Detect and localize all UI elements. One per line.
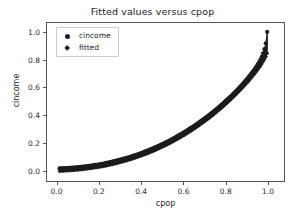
x-tick-mark xyxy=(183,182,184,185)
legend-item-cincome: cincome xyxy=(62,31,111,41)
y-tick-label: 1.0 xyxy=(12,27,40,36)
chart-legend: cincome fitted xyxy=(56,27,119,57)
x-tick-label: 0.0 xyxy=(51,187,63,196)
x-tick-mark xyxy=(268,182,269,185)
chart-figure: Fitted values versus cpop cincome cpop 0… xyxy=(0,0,305,221)
x-axis-label: cpop xyxy=(46,199,285,208)
y-tick-mark xyxy=(43,115,46,116)
legend-label: fitted xyxy=(79,43,99,53)
circle-marker-icon xyxy=(62,34,72,39)
x-tick-label: 0.8 xyxy=(220,187,232,196)
x-tick-mark xyxy=(226,182,227,185)
legend-label: cincome xyxy=(79,31,111,41)
x-tick-label: 0.6 xyxy=(178,187,190,196)
y-tick-label: 0.4 xyxy=(12,111,40,120)
x-tick-mark xyxy=(57,182,58,185)
x-tick-mark xyxy=(99,182,100,185)
y-tick-mark xyxy=(43,87,46,88)
chart-title: Fitted values versus cpop xyxy=(0,6,305,17)
y-tick-label: 0.6 xyxy=(12,83,40,92)
y-tick-label: 0.0 xyxy=(12,166,40,175)
y-tick-mark xyxy=(43,143,46,144)
y-tick-mark xyxy=(43,60,46,61)
diamond-marker-icon xyxy=(62,46,72,50)
series-fitted-markers xyxy=(58,51,270,173)
y-tick-mark xyxy=(43,32,46,33)
y-tick-label: 0.2 xyxy=(12,139,40,148)
legend-item-fitted: fitted xyxy=(62,43,111,53)
x-tick-label: 0.2 xyxy=(93,187,105,196)
x-tick-label: 0.4 xyxy=(135,187,147,196)
x-tick-label: 1.0 xyxy=(262,187,274,196)
y-tick-label: 0.8 xyxy=(12,55,40,64)
y-tick-mark xyxy=(43,171,46,172)
x-tick-mark xyxy=(141,182,142,185)
